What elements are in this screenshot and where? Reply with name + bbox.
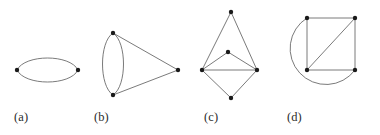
panel-d-edge-diagonal xyxy=(307,18,355,70)
figure-panel: (a) (b) (c) (d) xyxy=(0,0,380,135)
panel-b-edge-right xyxy=(113,33,124,95)
panel-d-vertex-bottom-right xyxy=(353,68,357,72)
panel-c-vertex-middle xyxy=(226,50,230,54)
panel-b-vertex-bottom xyxy=(111,93,115,97)
panel-c-vertex-top xyxy=(229,10,233,14)
panel-c-edge-middle-left xyxy=(202,52,228,70)
panel-c-edge-top-right xyxy=(231,12,257,70)
panel-c-vertex-right xyxy=(255,68,259,72)
panel-a-edge-lower xyxy=(17,70,78,82)
graph-diagram-canvas xyxy=(0,0,380,135)
panel-c-edge-top-left xyxy=(202,12,231,70)
panel-c-edge-right-bottom xyxy=(231,70,257,98)
panel-b-graph xyxy=(103,31,181,97)
panel-c-edge-left-bottom xyxy=(202,70,231,98)
panel-c-vertex-bottom xyxy=(229,96,233,100)
panel-b-vertex-apex xyxy=(176,68,180,72)
panel-d-vertex-bottom-left xyxy=(305,68,309,72)
panel-b-edge-left xyxy=(103,33,114,95)
panel-a-vertex-right xyxy=(76,68,80,72)
panel-a-graph xyxy=(15,58,80,82)
panel-d-vertex-top-right xyxy=(353,16,357,20)
panel-d-vertex-top-left xyxy=(305,16,309,20)
panel-d-graph xyxy=(290,16,357,85)
panel-c-graph xyxy=(200,10,259,100)
panel-b-vertex-top xyxy=(111,31,115,35)
panel-a-edge-upper xyxy=(17,58,78,70)
panel-a-vertex-left xyxy=(15,68,19,72)
panel-c-vertex-left xyxy=(200,68,204,72)
